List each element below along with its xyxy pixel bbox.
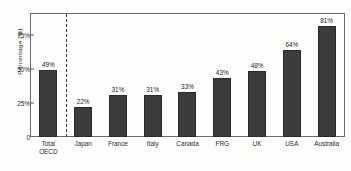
bar-value-label: 33% xyxy=(181,83,194,90)
x-axis-tick-label: Canada xyxy=(176,140,198,148)
x-axis-tick-label: France xyxy=(108,140,128,148)
bar[interactable] xyxy=(283,50,301,137)
x-axis-tick-label-line: Australia xyxy=(314,140,339,147)
bar-group: 64% xyxy=(274,14,309,137)
bar-group: 31% xyxy=(135,14,170,137)
y-axis-tick-labels: 025%50%75% xyxy=(6,0,30,171)
bar[interactable] xyxy=(74,107,92,137)
x-axis-tick-label: UK xyxy=(253,140,262,148)
bar-group: 22% xyxy=(66,14,101,137)
x-axis-tick-label-line: FRG xyxy=(216,140,230,147)
bar-group: 43% xyxy=(205,14,240,137)
bar[interactable] xyxy=(213,78,231,137)
x-axis-tick-label: FRG xyxy=(216,140,230,148)
x-axis-tick-label-line: Italy xyxy=(147,140,159,147)
bar-group: 33% xyxy=(170,14,205,137)
x-axis-tick-label-line: OECD xyxy=(39,148,57,156)
x-axis-tick-label-line: USA xyxy=(285,140,298,147)
x-axis-tick-label-line: Japan xyxy=(74,140,91,147)
x-axis-tick-label: Italy xyxy=(147,140,159,148)
x-axis-tick-label-line: UK xyxy=(253,140,262,147)
bar-value-label: 64% xyxy=(285,41,298,48)
x-axis-tick-label: Japan xyxy=(74,140,91,148)
y-axis-tick-label: 75% xyxy=(8,31,30,38)
y-axis-tick-label: 0 xyxy=(8,134,30,141)
bar[interactable] xyxy=(39,70,57,137)
x-axis-tick-label: TotalOECD xyxy=(39,140,57,157)
bar-value-label: 22% xyxy=(77,98,90,105)
bar-value-label: 43% xyxy=(216,69,229,76)
bar[interactable] xyxy=(109,95,127,137)
bar-value-label: 48% xyxy=(251,62,264,69)
plot-area: 49%22%31%31%33%43%48%64%81% xyxy=(31,14,344,137)
bar-value-label: 31% xyxy=(146,86,159,93)
bar-group: 49% xyxy=(31,14,66,137)
x-axis-tick-label-line: Canada xyxy=(176,140,198,147)
bar[interactable] xyxy=(248,71,266,137)
bar-group: 31% xyxy=(101,14,136,137)
y-axis-tick-label: 25% xyxy=(8,99,30,106)
bar-group: 81% xyxy=(309,14,344,137)
x-axis-tick-label-line: Total xyxy=(42,140,56,147)
bar-value-label: 31% xyxy=(112,86,125,93)
x-axis-tick-label: Australia xyxy=(314,140,339,148)
bar[interactable] xyxy=(144,95,162,137)
bar-chart-figure: Percentage (%) 025%50%75% 49%22%31%31%33… xyxy=(0,0,351,171)
y-axis-tick-mark xyxy=(30,68,34,69)
y-axis-tick-mark xyxy=(30,34,34,35)
x-axis-tick-label-line: France xyxy=(108,140,128,147)
bar-value-label: 81% xyxy=(320,17,333,24)
x-axis-tick-labels: TotalOECDJapanFranceItalyCanadaFRGUKUSAA… xyxy=(31,140,344,170)
bar-value-label: 49% xyxy=(42,61,55,68)
bar[interactable] xyxy=(178,92,196,137)
group-divider-line xyxy=(66,14,67,137)
x-axis-tick-label: USA xyxy=(285,140,298,148)
y-axis-tick-mark xyxy=(30,102,34,103)
bar-group: 48% xyxy=(240,14,275,137)
bar[interactable] xyxy=(318,26,336,137)
y-axis-tick-label: 50% xyxy=(8,65,30,72)
